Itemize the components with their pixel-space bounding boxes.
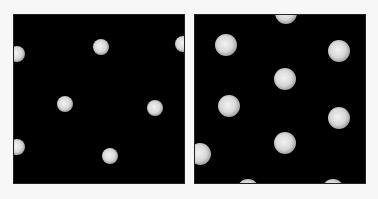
bright-spot	[175, 36, 185, 52]
left-panel-image	[13, 14, 185, 184]
bright-spot	[237, 179, 259, 184]
bright-spot	[328, 40, 350, 62]
bright-spot	[215, 34, 237, 56]
bright-spot	[218, 95, 240, 117]
bright-spot	[194, 143, 211, 165]
bright-spot	[274, 132, 296, 154]
bright-spot	[274, 68, 296, 90]
bright-spot	[13, 139, 25, 155]
bright-spot	[13, 46, 25, 62]
bright-spot	[57, 96, 73, 112]
bright-spot	[102, 148, 118, 164]
bright-spot	[322, 179, 344, 184]
bright-spot	[93, 39, 109, 55]
right-panel-image	[194, 14, 366, 184]
bright-spot	[328, 107, 350, 129]
bright-spot	[275, 14, 297, 24]
bright-spot	[147, 100, 163, 116]
